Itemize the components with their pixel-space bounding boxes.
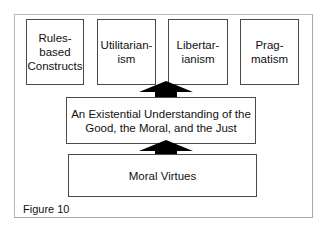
- box-utilitarianism: Utilitarian- ism: [97, 19, 156, 85]
- box-libertarianism: Libertar- ianism: [168, 19, 228, 85]
- box-label: Utilitarian- ism: [101, 38, 153, 66]
- box-moral-virtues: Moral Virtues: [68, 154, 257, 197]
- box-label: Moral Virtues: [129, 169, 197, 183]
- box-rules-based-constructs: Rules-based Constructs: [26, 19, 84, 85]
- box-label: Rules-based Constructs: [27, 31, 83, 73]
- box-label: An Existential Understanding of the Good…: [71, 107, 251, 135]
- box-existential-understanding: An Existential Understanding of the Good…: [66, 97, 256, 144]
- box-label: Prag- matism: [251, 38, 288, 66]
- figure-caption: Figure 10: [23, 203, 69, 215]
- box-label: Libertar- ianism: [177, 38, 220, 66]
- box-pragmatism: Prag- matism: [240, 19, 299, 85]
